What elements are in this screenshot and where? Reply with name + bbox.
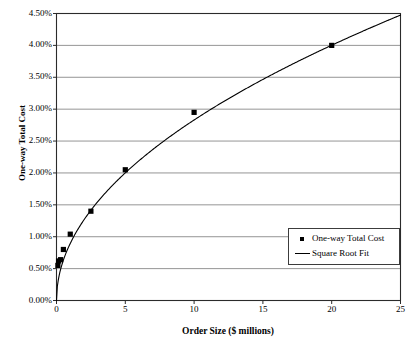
legend-label-one-way-total-cost: One-way Total Cost bbox=[312, 234, 384, 243]
chart-container: One-way Total Cost 0.00%0.50%1.00%1.50%2… bbox=[0, 0, 415, 346]
legend-line-marker-icon bbox=[292, 247, 312, 261]
legend-square-marker-icon bbox=[292, 232, 312, 246]
legend-item-one-way-total-cost: One-way Total Cost bbox=[292, 231, 396, 246]
chart-legend: One-way Total Cost Square Root Fit bbox=[288, 228, 400, 265]
legend-label-square-root-fit: Square Root Fit bbox=[312, 249, 369, 258]
legend-item-square-root-fit: Square Root Fit bbox=[292, 246, 396, 261]
plot-area bbox=[0, 0, 415, 346]
